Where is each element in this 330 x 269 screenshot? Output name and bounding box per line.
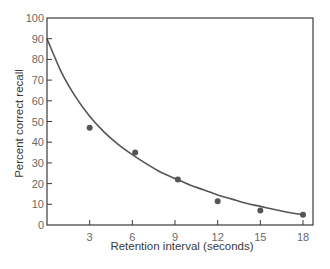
plot-frame xyxy=(47,18,313,225)
x-tick-label: 18 xyxy=(297,231,309,243)
y-tick-label: 10 xyxy=(32,198,44,210)
x-axis-title: Retention interval (seconds) xyxy=(110,240,253,252)
y-axis-title: Percent correct recall xyxy=(13,69,25,178)
data-point xyxy=(215,198,221,204)
data-point xyxy=(175,176,181,182)
data-point xyxy=(300,212,306,218)
y-axis-ticks: 0102030405060708090100 xyxy=(26,12,52,231)
data-point xyxy=(132,150,138,156)
y-tick-label: 80 xyxy=(32,53,44,65)
y-tick-label: 50 xyxy=(32,116,44,128)
y-tick-label: 0 xyxy=(38,219,44,231)
y-tick-label: 20 xyxy=(32,178,44,190)
y-tick-label: 30 xyxy=(32,157,44,169)
y-tick-label: 100 xyxy=(26,12,44,24)
data-point xyxy=(87,125,93,131)
y-tick-label: 40 xyxy=(32,136,44,148)
data-points xyxy=(87,125,306,218)
y-tick-label: 90 xyxy=(32,33,44,45)
x-tick-label: 3 xyxy=(87,231,93,243)
y-tick-label: 60 xyxy=(32,95,44,107)
y-tick-label: 70 xyxy=(32,74,44,86)
fitted-curve xyxy=(47,39,303,215)
x-tick-label: 15 xyxy=(254,231,266,243)
retention-chart: 0102030405060708090100 369121518 Retenti… xyxy=(0,0,330,269)
data-point xyxy=(257,208,263,214)
